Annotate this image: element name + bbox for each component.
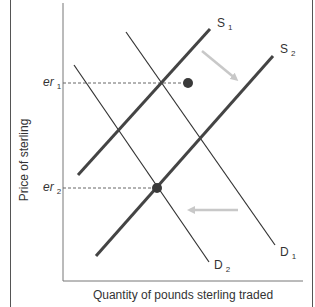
- price-label-er1: er1: [43, 75, 61, 91]
- supply-shift-arrow: [202, 51, 236, 79]
- x-axis-label: Quantity of pounds sterling traded: [93, 288, 273, 302]
- curve-label-s1: S1: [217, 16, 232, 32]
- equilibrium-point-1: [183, 78, 193, 88]
- price-label-er2: er2: [43, 180, 61, 196]
- curve-label-d2: D2: [214, 258, 230, 274]
- supply-curve-s1: [78, 29, 210, 175]
- supply-demand-diagram: [0, 0, 315, 307]
- demand-curve-d2: [74, 65, 209, 262]
- y-axis-label: Price of sterling: [17, 119, 31, 202]
- curve-label-d1: D1: [280, 245, 296, 261]
- curve-label-s2: S2: [280, 42, 295, 58]
- equilibrium-point-2: [152, 183, 162, 193]
